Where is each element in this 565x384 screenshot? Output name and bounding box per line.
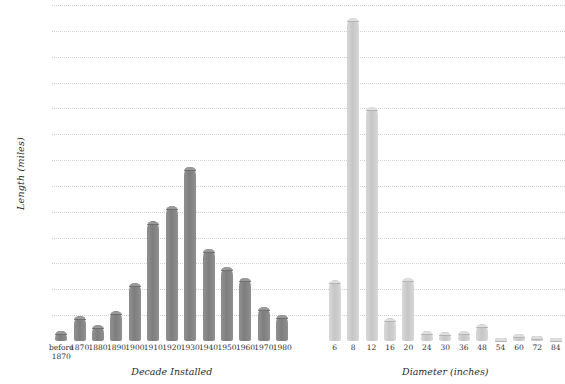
x-axis-tick-label: 1980 xyxy=(273,344,292,353)
x-axis-title-decade: Decade Installed xyxy=(131,366,212,377)
bar xyxy=(476,324,488,341)
bar xyxy=(74,316,86,341)
bar-cap xyxy=(550,338,562,342)
bar xyxy=(458,331,470,341)
x-axis-tick-label: 12 xyxy=(367,344,377,353)
bar-cap xyxy=(92,325,104,329)
bar-cap xyxy=(258,307,270,311)
bar-cap xyxy=(239,278,251,282)
bar xyxy=(129,283,141,341)
x-axis-tick-label: 1890 xyxy=(107,344,126,353)
bar-cap xyxy=(203,249,215,253)
bar xyxy=(258,307,270,341)
bar xyxy=(384,318,396,341)
x-axis-tick-label: 16 xyxy=(385,344,395,353)
bar-cap xyxy=(184,167,196,171)
bar xyxy=(203,249,215,341)
bar-cap xyxy=(421,331,433,335)
bar-cap xyxy=(384,318,396,322)
x-axis-tick-label: 1950 xyxy=(217,344,236,353)
bar xyxy=(184,167,196,341)
x-axis-tick-label: 54 xyxy=(496,344,506,353)
x-axis-tick-label: 20 xyxy=(404,344,414,353)
bar xyxy=(402,278,414,341)
bar xyxy=(110,311,122,341)
bar xyxy=(92,325,104,341)
bar xyxy=(329,280,341,341)
x-axis-tick-label: 1960 xyxy=(236,344,255,353)
bar xyxy=(239,278,251,341)
bar-cap xyxy=(74,316,86,320)
bar-cap xyxy=(276,315,288,319)
bar-cap xyxy=(366,107,378,111)
bar xyxy=(347,18,359,341)
x-axis-tick-label: 6 xyxy=(332,344,337,353)
plot-area xyxy=(52,0,565,341)
bar-cap xyxy=(55,331,67,335)
x-axis-tick-label: 24 xyxy=(422,344,432,353)
x-axis-tick-label: 1940 xyxy=(199,344,218,353)
bar-cap xyxy=(439,332,451,336)
x-axis-tick-label: 1920 xyxy=(162,344,181,353)
bar-cap xyxy=(476,324,488,328)
bars-layer xyxy=(52,0,565,341)
bar xyxy=(55,331,67,341)
bar-cap xyxy=(513,334,525,338)
bar xyxy=(166,206,178,341)
x-axis-ticks: before1870187018801890190019101920193019… xyxy=(52,344,565,366)
bar xyxy=(147,221,159,341)
x-axis-tick-label: 8 xyxy=(351,344,356,353)
bar xyxy=(531,336,543,341)
x-axis-tick-label: 30 xyxy=(440,344,450,353)
x-axis-tick-label: 48 xyxy=(477,344,487,353)
x-axis-tick-label: 84 xyxy=(551,344,561,353)
bar-cap xyxy=(458,331,470,335)
x-axis-tick-label: 1930 xyxy=(181,344,200,353)
x-axis-tick-label: 1970 xyxy=(254,344,273,353)
x-axis-tick-label: 1870 xyxy=(70,344,89,353)
bar xyxy=(421,331,433,341)
bar-cap xyxy=(495,338,507,342)
bar xyxy=(439,332,451,341)
y-axis-title: Length (miles) xyxy=(15,114,26,234)
bar xyxy=(366,107,378,341)
x-axis-tick-label: 1900 xyxy=(125,344,144,353)
x-axis-tick-label: 36 xyxy=(459,344,469,353)
bar xyxy=(276,315,288,341)
x-axis-tick-label: 1910 xyxy=(144,344,163,353)
bar xyxy=(550,338,562,342)
bar xyxy=(513,334,525,341)
x-axis-title-diameter: Diameter (inches) xyxy=(402,366,488,377)
bar-cap xyxy=(110,311,122,315)
bar-chart: Length (miles) 2,6002,4002,2002,0001,800… xyxy=(0,0,565,384)
bar-cap xyxy=(221,267,233,271)
bar xyxy=(495,338,507,342)
x-axis-tick-label: 1880 xyxy=(89,344,108,353)
bar-cap xyxy=(147,221,159,225)
bar-cap xyxy=(402,278,414,282)
bar-cap xyxy=(329,280,341,284)
bar-cap xyxy=(531,336,543,340)
bar-cap xyxy=(347,18,359,22)
x-axis-tick-label: 72 xyxy=(533,344,543,353)
bar-cap xyxy=(129,283,141,287)
x-axis-tick-label: 60 xyxy=(514,344,524,353)
bar xyxy=(221,267,233,341)
bar-cap xyxy=(166,206,178,210)
